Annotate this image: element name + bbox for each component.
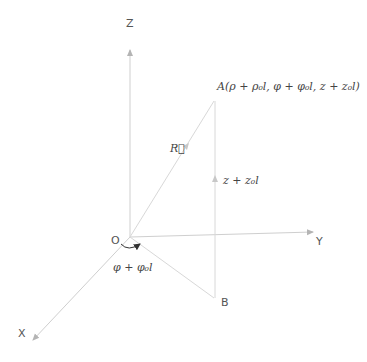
angle-arc-icon [121,244,140,248]
vertical-arrowhead-icon [212,175,218,182]
y-axis-label: Y [316,236,323,247]
diagram-canvas: Z Y X O B A(ρ + ρ₀l, φ + φ₀l, z + z₀l) R… [0,0,367,362]
z-axis-label: Z [126,18,134,29]
x-axis-label: X [18,328,26,339]
origin-label: O [111,235,120,246]
x-axis [33,237,130,340]
y-axis [130,232,313,237]
vector-r-line [130,101,214,237]
vector-r-label: R⃗ [170,143,185,154]
point-a-label: A(ρ + ρ₀l, φ + φ₀l, z + z₀l) [217,81,360,92]
vertical-component-label: z + z₀l [223,175,259,186]
angle-label: φ + φ₀l [113,262,153,273]
point-b-label: B [221,297,229,308]
